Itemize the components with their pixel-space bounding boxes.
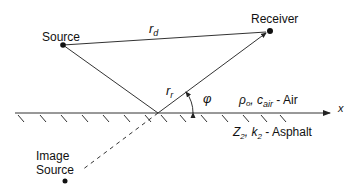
angle-label: φ <box>203 91 212 106</box>
direct-path-line <box>63 32 266 45</box>
image-source-path-line <box>82 113 158 170</box>
image-source-label-line1: Image <box>36 149 70 163</box>
image-source-label-line2: Source <box>36 163 74 177</box>
incident-path-line <box>63 45 158 113</box>
direct-path-label: rd <box>149 21 159 38</box>
source-label: Source <box>42 30 80 44</box>
x-axis-label: x <box>337 102 344 114</box>
ground-surface <box>15 113 330 122</box>
sound-propagation-diagram: Source Receiver Image Source rd rr φ x ρ… <box>0 0 353 190</box>
image-source-point <box>63 179 68 184</box>
receiver-point <box>267 28 273 34</box>
angle-arc <box>186 92 193 113</box>
reflected-path-label: rr <box>166 83 174 100</box>
air-properties-label: ρo, cair - Air <box>238 93 298 109</box>
ground-properties-label: Z2, k2 - Asphalt <box>232 125 313 141</box>
receiver-label: Receiver <box>251 12 298 26</box>
